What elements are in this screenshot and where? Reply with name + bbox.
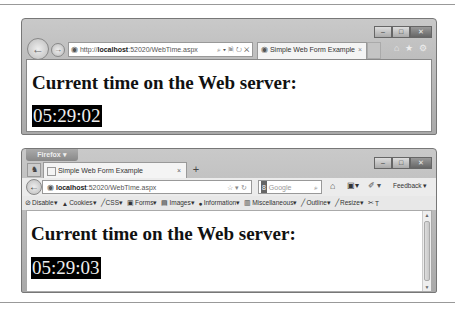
toolbar-css[interactable]: ╱CSS▾ (101, 199, 123, 207)
scroll-up-arrow[interactable]: ▲ (423, 212, 431, 218)
stop-icon[interactable]: ✕ (244, 46, 249, 53)
refresh-icon[interactable]: ↻ (236, 46, 242, 53)
firefox-menu-button[interactable]: Firefox ▾ (26, 149, 78, 161)
bookmark-star-icon[interactable]: ☆ (227, 184, 233, 191)
sidebar-icon[interactable]: ▣▾ (347, 181, 359, 190)
favorites-icon[interactable]: ★ (405, 43, 419, 53)
addon-icon[interactable]: ✐ ▾ (368, 181, 381, 190)
toolbar-outline[interactable]: ╱Outline▾ (301, 199, 331, 207)
firefox-window: Firefox ▾ – □ ✕ ♞ Simple Web Form Exampl… (21, 148, 437, 293)
outline-icon: ╱ (301, 199, 305, 207)
history-dropdown-icon[interactable]: ▾ (235, 184, 239, 191)
home-icon[interactable]: ⌂ (394, 43, 405, 53)
toolbar-label: Resize▾ (340, 199, 364, 207)
toolbar-label: T (375, 200, 379, 207)
time-label: 05:29:02 (32, 105, 102, 127)
ie-tab-icon: ◉ (261, 43, 268, 57)
site-identity-icon: ◉ (47, 181, 54, 194)
url-path: :52020/WebTime.aspx (87, 184, 157, 191)
new-tab-button[interactable]: + (189, 163, 203, 177)
address-controls: ⌕ ▾ 🗎 ↻ ✕ (217, 43, 249, 56)
tab-close-icon[interactable]: × (358, 43, 362, 57)
search-dropdown-icon[interactable]: ⌕ ▾ (217, 46, 226, 53)
tab-title: Simple Web Form Example (270, 46, 355, 53)
toolbar-label: CSS▾ (106, 199, 123, 207)
web-developer-toolbar: ⊘Disable▾ ▲Cookies▾ ╱CSS▾ ▣Forms▾ ▤Image… (22, 196, 437, 210)
search-icon[interactable]: ⌕ (314, 181, 318, 194)
close-button[interactable]: ✕ (410, 26, 432, 38)
forward-button[interactable]: → (51, 43, 65, 57)
ie-address-bar[interactable]: ◉ http://localhost:52020/WebTime.aspx ⌕ … (68, 42, 253, 57)
toolbar-label: Miscellaneous▾ (252, 199, 297, 207)
tab-favicon (47, 167, 56, 176)
forms-icon: ▣ (127, 199, 134, 207)
tab-groups-button[interactable]: ♞ (27, 163, 41, 177)
new-tab-button[interactable] (367, 42, 381, 59)
toolbar-label: Outline▾ (306, 199, 331, 207)
toolbar-information[interactable]: ●Information▾ (199, 199, 240, 207)
toolbar-forms[interactable]: ▣Forms▾ (127, 199, 157, 207)
search-placeholder: Google (269, 184, 292, 191)
toolbar-label: Information▾ (204, 199, 241, 207)
miscellaneous-icon: ▥ (244, 199, 251, 207)
ie-window: – □ ✕ ← → ◉ http://localhost:52020/WebTi… (21, 18, 437, 135)
vertical-scrollbar[interactable]: ▲ ▼ (422, 211, 431, 291)
reload-icon[interactable]: ↻ (241, 184, 247, 191)
tools-icon: ✂ (368, 199, 374, 207)
time-label: 05:29:03 (31, 257, 101, 279)
url-host: localhost (56, 184, 87, 191)
toolbar-label: Disable▾ (32, 199, 58, 207)
disable-icon: ⊘ (25, 199, 31, 207)
firefox-address-bar[interactable]: ◉ localhost:52020/WebTime.aspx ☆ ▾ ↻ (42, 180, 252, 194)
firefox-window-controls: – □ ✕ (374, 157, 432, 169)
url-path: :52020/WebTime.aspx (128, 46, 198, 53)
toolbar-label: Images▾ (169, 199, 194, 207)
toolbar-label: Forms▾ (135, 199, 157, 207)
scrollbar-thumb[interactable] (424, 221, 430, 281)
toolbar-images[interactable]: ▤Images▾ (161, 199, 194, 207)
images-icon: ▤ (161, 199, 168, 207)
firefox-tab[interactable]: Simple Web Form Example × (43, 162, 187, 178)
resize-icon: ╱ (335, 199, 339, 207)
home-icon[interactable]: ⌂ (330, 181, 335, 191)
nav-bar: ← ◉ localhost:52020/WebTime.aspx ☆ ▾ ↻ 8… (22, 178, 436, 196)
back-button[interactable]: ← (27, 38, 49, 60)
toolbar-resize[interactable]: ╱Resize▾ (335, 199, 364, 207)
maximize-button[interactable]: □ (392, 157, 410, 169)
address-controls: ☆ ▾ ↻ (227, 181, 247, 194)
page-heading: Current time on the Web server: (31, 223, 296, 245)
ie-page-icon: ◉ (71, 43, 78, 56)
close-button[interactable]: ✕ (410, 157, 432, 169)
url-host: localhost (97, 46, 128, 53)
scroll-down-arrow[interactable]: ▼ (423, 284, 431, 290)
ie-tab[interactable]: ◉ Simple Web Form Example × (257, 42, 367, 59)
cookies-icon: ▲ (62, 200, 68, 207)
url-prefix: http:// (80, 46, 98, 53)
search-engine-icon[interactable]: 8 (261, 181, 267, 194)
bottom-rule (0, 302, 455, 303)
toolbar-miscellaneous[interactable]: ▥Miscellaneous▾ (244, 199, 297, 207)
ie-window-controls: – □ ✕ (374, 26, 432, 38)
compat-view-icon[interactable]: 🗎 (228, 46, 234, 53)
search-box[interactable]: 8 Google ⌕ (258, 180, 322, 194)
page-heading: Current time on the Web server: (32, 72, 297, 94)
back-button[interactable]: ← (26, 179, 42, 195)
css-icon: ╱ (101, 199, 105, 207)
maximize-button[interactable]: □ (392, 26, 410, 38)
toolbar-cookies[interactable]: ▲Cookies▾ (62, 199, 97, 207)
ie-page-content: Current time on the Web server: 05:29:02 (26, 59, 432, 132)
minimize-button[interactable]: – (374, 157, 392, 169)
tab-title: Simple Web Form Example (58, 167, 143, 174)
firefox-page-content: Current time on the Web server: 05:29:03… (26, 210, 432, 292)
toolbar-disable[interactable]: ⊘Disable▾ (25, 199, 58, 207)
minimize-button[interactable]: – (374, 26, 392, 38)
top-rule (0, 4, 455, 5)
tab-close-icon[interactable]: × (177, 163, 181, 178)
information-icon: ● (199, 200, 203, 207)
toolbar-label: Cookies▾ (69, 199, 96, 207)
tools-icon[interactable]: ⚙ (419, 43, 433, 53)
feedback-button[interactable]: Feedback ▾ (393, 182, 427, 190)
toolbar-tools[interactable]: ✂T (368, 199, 379, 207)
